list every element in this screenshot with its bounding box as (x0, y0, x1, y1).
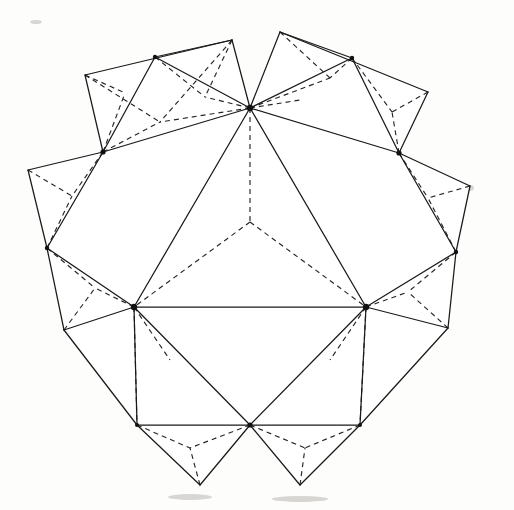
net-diagram-figure: Polyhedron net diagram Unfolded net of a… (0, 0, 514, 510)
net-diagram-svg (0, 0, 514, 510)
